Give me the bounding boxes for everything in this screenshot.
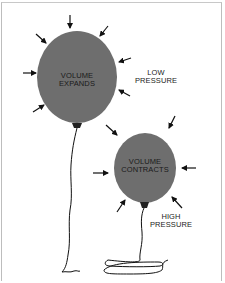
big-balloon-string <box>62 128 80 272</box>
small-balloon-label-line2: CONTRACTS <box>115 166 175 174</box>
big-balloon-knot <box>72 123 82 128</box>
high-pressure-line2: PRESSURE <box>145 221 197 229</box>
small-balloon-label: VOLUME CONTRACTS <box>115 158 175 174</box>
small-balloon-knot <box>140 202 149 208</box>
big-balloon <box>37 31 117 272</box>
low-pressure-line2: PRESSURE <box>133 77 179 85</box>
high-pressure-label: HIGH PRESSURE <box>145 213 197 229</box>
balloon-pressure-diagram <box>0 0 225 283</box>
big-balloon-label: VOLUME EXPANDS <box>52 72 102 88</box>
big-balloon-label-line2: EXPANDS <box>52 80 102 88</box>
small-balloon <box>104 133 176 274</box>
low-pressure-label: LOW PRESSURE <box>133 69 179 85</box>
